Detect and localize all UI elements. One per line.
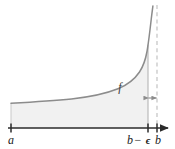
x-axis-label-epsilon: ϵ — [146, 134, 151, 146]
shaded-area-under-f — [11, 45, 148, 129]
x-axis-label-b: b — [155, 133, 161, 147]
x-axis-label-b-minus-epsilon-base: b — [127, 133, 133, 147]
figure-improper-integral: f a b − ϵ b — [0, 0, 175, 149]
x-axis-label-a: a — [8, 133, 14, 147]
x-axis-label-minus-sign: − — [135, 133, 142, 147]
diagram-canvas: f a b − ϵ b — [0, 0, 175, 149]
